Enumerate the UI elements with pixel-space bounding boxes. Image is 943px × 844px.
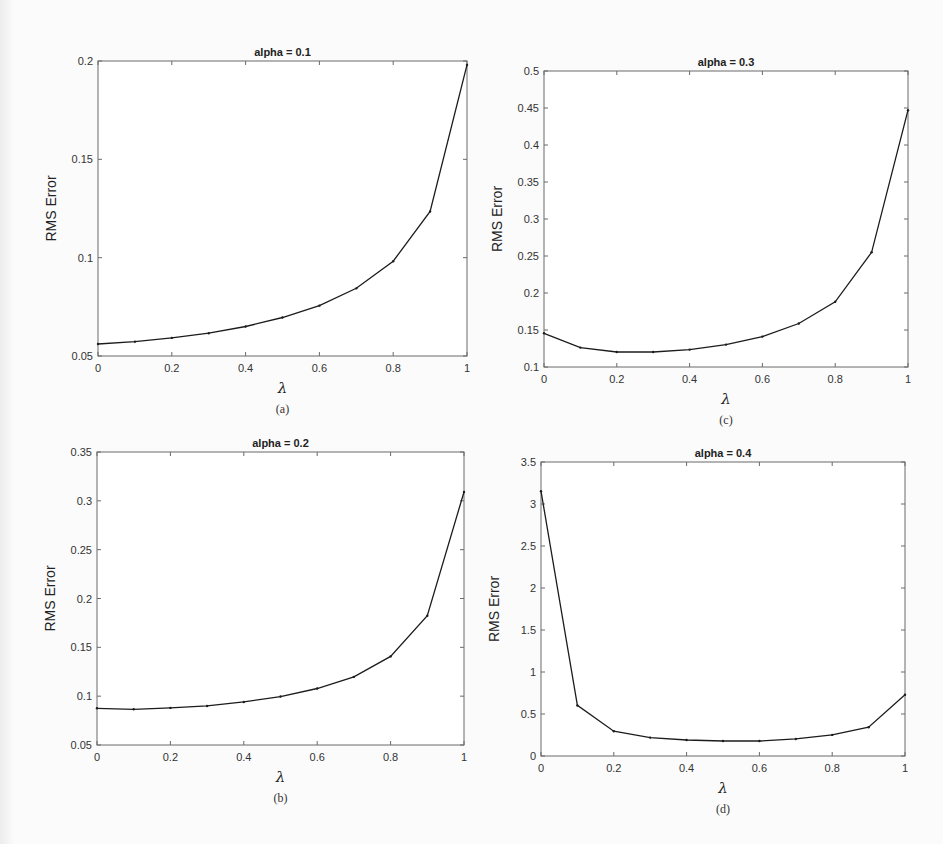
data-point-marker [688,348,690,350]
data-point-marker [355,287,357,289]
subplot-title: alpha = 0.4 [695,447,752,459]
data-point-marker [392,260,394,262]
data-point-marker [353,676,355,678]
data-point-marker [649,736,651,738]
data-point-marker [758,740,760,742]
data-point-marker [171,337,173,339]
y-tick-label: 0.4 [524,139,539,151]
y-axis-label: RMS Error [42,565,58,631]
y-axis-label: RMS Error [486,576,502,642]
data-point-marker [795,738,797,740]
y-tick-label: 0.25 [518,250,539,262]
x-tick-label: 0.8 [383,751,398,763]
x-tick-label: 1 [905,373,911,385]
data-point-marker [579,346,581,348]
x-tick-label: 0 [541,373,547,385]
data-point-marker [761,335,763,337]
axes-box [97,452,464,745]
data-point-marker [279,695,281,697]
x-tick-label: 0.4 [679,762,694,774]
subplot-b: 00.20.40.60.810.050.10.150.20.250.30.35a… [42,437,467,805]
data-point-marker [134,340,136,342]
y-tick-label: 0.35 [518,176,539,188]
x-tick-label: 0.6 [312,362,327,374]
y-tick-label: 0.2 [77,593,92,605]
data-point-marker [426,614,428,616]
x-tick-label: 0 [538,762,544,774]
y-tick-label: 0.15 [71,641,92,653]
y-tick-label: 0.05 [72,350,93,362]
data-point-marker [904,694,906,696]
data-point-marker [540,490,542,492]
y-tick-label: 2.5 [521,540,536,552]
x-tick-label: 0.8 [386,362,401,374]
y-tick-label: 0.5 [521,708,536,720]
data-point-marker [389,655,391,657]
y-tick-label: 0.3 [77,495,92,507]
y-tick-label: 0.2 [524,287,539,299]
subplot-c: 00.20.40.60.810.10.150.20.250.30.350.40.… [489,56,911,427]
x-axis-label: λ [720,390,731,408]
data-point-marker [243,701,245,703]
subfigure-label: (a) [276,402,289,416]
y-axis-label: RMS Error [43,175,59,241]
axes-box [98,61,467,356]
y-tick-label: 1 [530,666,536,678]
y-tick-label: 1.5 [521,624,536,636]
data-point-marker [907,109,909,111]
x-tick-label: 1 [461,751,467,763]
x-tick-label: 0 [95,362,101,374]
y-tick-label: 0.1 [78,252,93,264]
data-point-marker [543,332,545,334]
x-tick-label: 0.2 [606,762,621,774]
data-point-marker [798,322,800,324]
y-tick-label: 0.25 [71,544,92,556]
data-point-marker [722,740,724,742]
subfigure-label: (b) [274,791,288,805]
x-tick-label: 0.8 [825,762,840,774]
data-point-marker [318,304,320,306]
subfigure-label: (d) [716,802,730,816]
y-tick-label: 0.05 [71,739,92,751]
data-point-marker [870,251,872,253]
data-point-marker [169,707,171,709]
data-point-marker [208,332,210,334]
subplot-title: alpha = 0.1 [254,46,311,58]
axes-box [541,462,905,756]
y-tick-label: 0.5 [524,65,539,77]
x-tick-label: 0.4 [238,362,253,374]
x-tick-label: 0 [94,751,100,763]
y-tick-label: 0.1 [524,361,539,373]
data-point-marker [834,301,836,303]
y-tick-label: 0.15 [72,153,93,165]
y-tick-label: 2 [530,582,536,594]
data-point-marker [97,343,99,345]
data-point-marker [576,704,578,706]
y-tick-label: 0 [530,750,536,762]
data-point-marker [206,705,208,707]
x-axis-label: λ [275,768,286,786]
figure-canvas: 00.20.40.60.810.050.10.150.2alpha = 0.1R… [0,0,943,844]
x-axis-label: λ [277,379,288,397]
data-point-marker [652,351,654,353]
axes-box [544,71,908,367]
x-tick-label: 0.4 [236,751,251,763]
data-point-marker [316,687,318,689]
subplot-a: 00.20.40.60.810.050.10.150.2alpha = 0.1R… [43,46,470,416]
data-point-marker [244,325,246,327]
y-tick-label: 3 [530,498,536,510]
subfigure-label: (c) [719,413,732,427]
x-tick-label: 1 [902,762,908,774]
y-axis-label: RMS Error [489,186,505,252]
data-point-marker [466,64,468,66]
y-tick-label: 0.35 [71,446,92,458]
x-tick-label: 0.8 [828,373,843,385]
data-point-marker [463,491,465,493]
y-tick-label: 0.3 [524,213,539,225]
data-point-marker [281,316,283,318]
x-tick-label: 0.4 [682,373,697,385]
y-tick-label: 0.2 [78,55,93,67]
data-point-marker [133,708,135,710]
y-tick-label: 0.15 [518,324,539,336]
data-point-marker [96,707,98,709]
